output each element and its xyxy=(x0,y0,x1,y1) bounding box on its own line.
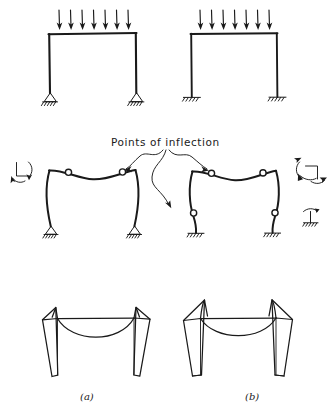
frame-b-base-moment-right xyxy=(275,375,284,376)
moment-diagram-a: (a) xyxy=(43,307,151,402)
frame-b-deflected-left-column xyxy=(190,172,196,234)
pin-support-icon xyxy=(128,93,144,106)
load-arrow xyxy=(267,10,273,30)
inflection-label: Points of inflection xyxy=(111,136,220,148)
frame-b-beam-moment xyxy=(201,318,277,336)
frame-a-deflected-right-column xyxy=(134,170,138,226)
load-arrow xyxy=(91,10,97,30)
load-arrow xyxy=(209,10,215,30)
frame-b-deflected xyxy=(187,170,281,237)
structural-figure: Points of inflection xyxy=(0,0,333,415)
row-loaded-frames xyxy=(41,10,286,106)
load-arrow xyxy=(244,10,250,30)
frame-a-left-column xyxy=(49,34,50,93)
frame-a-column-moment-right xyxy=(134,307,150,376)
fixed-support-icon xyxy=(264,233,281,237)
load-arrow xyxy=(103,10,109,30)
load-arrow xyxy=(232,10,238,30)
figure-canvas: Points of inflection xyxy=(0,0,333,415)
load-arrows-frame-a xyxy=(57,10,132,30)
joint-rotation-icon xyxy=(294,158,327,184)
fixed-support-icon xyxy=(183,97,201,101)
frame-a-loaded xyxy=(41,10,143,106)
pin-support-icon xyxy=(41,93,57,105)
load-arrow xyxy=(198,10,204,30)
load-arrow xyxy=(126,10,132,30)
inflection-point xyxy=(208,170,214,176)
frame-a-column-moment-left xyxy=(43,308,58,377)
frame-b-beam xyxy=(191,33,278,34)
load-arrows-frame-b xyxy=(198,10,273,30)
inflection-point xyxy=(65,169,71,175)
fixed-support-icon xyxy=(268,97,286,101)
joint-rotation-icon xyxy=(11,162,33,183)
frame-a-deflected xyxy=(43,169,142,238)
frame-b-base-moment-left xyxy=(193,375,202,376)
load-arrow xyxy=(68,10,74,30)
pin-support-icon xyxy=(127,226,142,238)
frame-b-deflected-right-column xyxy=(273,171,279,233)
frame-a-beam xyxy=(49,33,137,34)
frame-b-left-column xyxy=(191,34,192,97)
caption-b: (b) xyxy=(245,391,259,402)
frame-b-loaded xyxy=(183,10,287,101)
load-arrow xyxy=(57,10,63,30)
pin-support-icon xyxy=(43,227,58,239)
row-deflected-shapes: Points of inflection xyxy=(11,136,327,238)
leader-arrow-right xyxy=(169,150,209,172)
load-arrow xyxy=(255,10,261,30)
inflection-point xyxy=(260,170,266,176)
frame-a-deflected-left-column xyxy=(47,171,51,227)
inflection-point xyxy=(272,210,278,216)
row-moment-diagrams: (a) (b) xyxy=(43,300,293,402)
frame-a-beam-moment xyxy=(58,318,135,337)
moment-diagram-b: (b) xyxy=(184,300,293,402)
fixed-support-icon xyxy=(187,233,204,237)
fixed-support-rotation-icon xyxy=(303,209,320,227)
caption-a: (a) xyxy=(80,391,94,402)
frame-a-right-column xyxy=(136,33,137,93)
frame-b-right-column xyxy=(277,33,278,97)
load-arrow xyxy=(80,10,86,30)
inflection-point xyxy=(119,169,125,175)
load-arrow xyxy=(114,10,120,30)
leader-arrow-down xyxy=(152,150,171,208)
leader-arrow-left xyxy=(124,150,163,172)
load-arrow xyxy=(221,10,227,30)
inflection-point xyxy=(191,210,197,216)
